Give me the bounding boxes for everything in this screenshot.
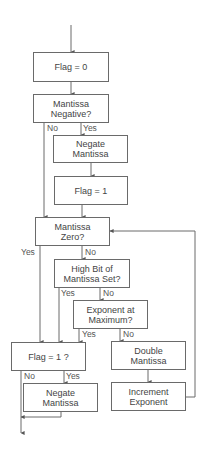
high-bit-set-decision: High Bit of Mantissa Set?	[54, 259, 130, 288]
mantissa-negative-decision: Mantissa Negative?	[33, 94, 109, 123]
branch-label-no: No	[24, 372, 35, 381]
branch-label-no: No	[85, 248, 96, 257]
node-text: Flag = 1 ?	[28, 352, 68, 362]
exponent-maximum-decision: Exponent at Maximum?	[73, 300, 148, 329]
node-text: Flag = 0	[55, 62, 88, 72]
node-text: Increment	[128, 387, 168, 397]
node-text: Mantissa	[54, 222, 90, 232]
mantissa-zero-decision: Mantissa Zero?	[35, 217, 110, 246]
branch-label-yes: Yes	[82, 330, 96, 339]
branch-label-yes: Yes	[83, 124, 97, 133]
node-text: Exponent	[129, 397, 167, 407]
flag-one-box: Flag = 1	[54, 176, 128, 205]
node-text: Mantissa	[53, 99, 89, 109]
node-text: Double	[134, 346, 163, 356]
negate-mantissa-box-2: Negate Mantissa	[23, 383, 98, 412]
node-text: Negative?	[51, 109, 92, 119]
node-text: Mantissa Set?	[63, 274, 120, 284]
increment-exponent-box: Increment Exponent	[111, 382, 186, 411]
node-text: Mantissa	[130, 356, 166, 366]
node-text: High Bit of	[71, 264, 113, 274]
node-text: Negate	[46, 388, 75, 398]
branch-label-yes: Yes	[61, 289, 75, 298]
node-text: Flag = 1	[75, 186, 108, 196]
branch-label-no: No	[123, 330, 134, 339]
flowchart-canvas: Flag = 0 Mantissa Negative? Negate Manti…	[0, 0, 206, 450]
branch-label-no: No	[103, 289, 114, 298]
negate-mantissa-box-1: Negate Mantissa	[53, 135, 128, 163]
flag-one-decision: Flag = 1 ?	[11, 342, 86, 371]
node-text: Negate	[76, 139, 105, 149]
double-mantissa-box: Double Mantissa	[111, 341, 186, 370]
node-text: Maximum?	[88, 315, 132, 325]
branch-label-yes: Yes	[66, 372, 80, 381]
branch-label-no: No	[47, 124, 58, 133]
node-text: Zero?	[61, 232, 85, 242]
node-text: Mantissa	[42, 398, 78, 408]
branch-label-yes: Yes	[21, 248, 35, 257]
flag-zero-box: Flag = 0	[33, 52, 109, 82]
node-text: Mantissa	[72, 149, 108, 159]
node-text: Exponent at	[86, 305, 134, 315]
